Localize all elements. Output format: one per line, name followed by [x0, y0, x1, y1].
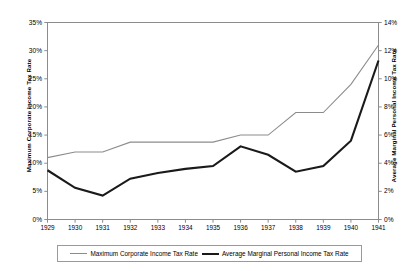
chart-legend: Maximum Corporate Income Tax Rate Averag…	[57, 245, 362, 262]
legend-item-corporate: Maximum Corporate Income Tax Rate	[70, 250, 198, 257]
legend-label-personal: Average Marginal Personal Income Tax Rat…	[222, 250, 349, 257]
legend-line-personal-icon	[202, 253, 219, 255]
legend-line-corporate-icon	[70, 253, 87, 254]
dual-axis-line-chart: Maximum Corporate Income Tax Rate Averag…	[0, 0, 417, 271]
legend-label-corporate: Maximum Corporate Income Tax Rate	[90, 250, 198, 257]
legend-item-personal: Average Marginal Personal Income Tax Rat…	[202, 250, 349, 257]
plot-area	[0, 0, 417, 271]
